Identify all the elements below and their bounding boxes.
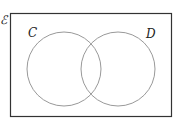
set-c-circle <box>27 32 101 106</box>
set-c-label: C <box>28 26 37 40</box>
set-d-label: D <box>145 27 156 41</box>
venn-diagram: ℰ C D <box>0 0 181 122</box>
universal-set-label: ℰ <box>0 13 9 27</box>
set-d-circle <box>81 32 155 106</box>
